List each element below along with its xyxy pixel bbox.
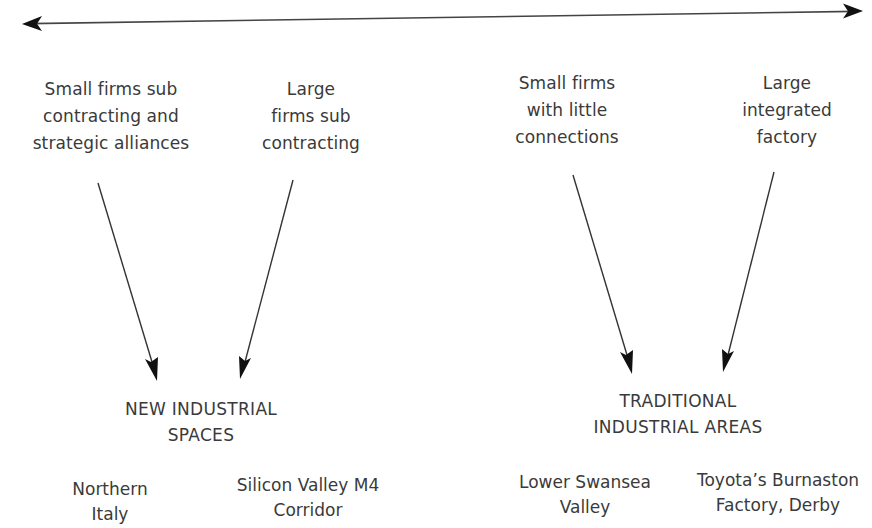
- spectrum-arrow: [22, 4, 863, 32]
- example-line: Valley: [519, 495, 651, 520]
- label-line: Small firms sub: [33, 76, 190, 103]
- label-line: firms sub: [262, 103, 360, 130]
- arrow-small-firms-to-new-industrial: [98, 183, 158, 381]
- arrowhead-icon: [620, 350, 633, 374]
- label-line: Large: [742, 70, 832, 97]
- label-line: contracting: [262, 130, 360, 157]
- example-line: Northern: [72, 477, 147, 502]
- arrow-large-firms-to-new-industrial: [239, 180, 293, 379]
- heading-line: INDUSTRIAL AREAS: [593, 414, 762, 440]
- arrowhead-left-icon: [22, 16, 42, 31]
- arrowhead-icon: [722, 349, 734, 372]
- label-line: contracting and: [33, 103, 190, 130]
- category-traditional-industrial-areas: TRADITIONAL INDUSTRIAL AREAS: [593, 388, 762, 440]
- label-line: with little: [515, 97, 619, 124]
- example-lower-swansea-valley: Lower Swansea Valley: [519, 470, 651, 520]
- label-line: integrated: [742, 97, 832, 124]
- example-toyota-burnaston: Toyota’s Burnaston Factory, Derby: [697, 468, 859, 518]
- arrow-small-firms-to-traditional: [573, 175, 633, 374]
- heading-line: TRADITIONAL: [593, 388, 762, 414]
- example-line: Corridor: [237, 498, 379, 523]
- arrowhead-icon: [145, 357, 158, 381]
- arrowhead-right-icon: [843, 4, 863, 19]
- label-line: connections: [515, 124, 619, 151]
- example-silicon-valley-m4: Silicon Valley M4 Corridor: [237, 473, 379, 523]
- example-line: Italy: [72, 502, 147, 527]
- source-large-firms-subcontracting: Large firms sub contracting: [262, 76, 360, 157]
- label-line: Large: [262, 76, 360, 103]
- source-small-firms-little-connections: Small firms with little connections: [515, 70, 619, 151]
- label-line: strategic alliances: [33, 130, 190, 157]
- arrowhead-icon: [239, 356, 251, 379]
- arrow-large-factory-to-traditional: [722, 172, 774, 372]
- label-line: Small firms: [515, 70, 619, 97]
- example-northern-italy: Northern Italy: [72, 477, 147, 527]
- source-large-integrated-factory: Large integrated factory: [742, 70, 832, 151]
- example-line: Silicon Valley M4: [237, 473, 379, 498]
- label-line: factory: [742, 124, 832, 151]
- heading-line: NEW INDUSTRIAL: [125, 396, 277, 422]
- example-line: Factory, Derby: [697, 493, 859, 518]
- example-line: Toyota’s Burnaston: [697, 468, 859, 493]
- example-line: Lower Swansea: [519, 470, 651, 495]
- category-new-industrial-spaces: NEW INDUSTRIAL SPACES: [125, 396, 277, 448]
- heading-line: SPACES: [125, 422, 277, 448]
- source-small-firms-subcontracting: Small firms sub contracting and strategi…: [33, 76, 190, 157]
